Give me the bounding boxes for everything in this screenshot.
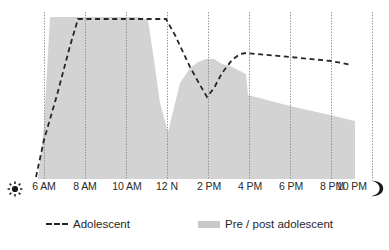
x-tick-1: 8 AM — [73, 180, 97, 192]
x-tick-8: 10 PM — [337, 180, 367, 192]
x-tick-5: 4 PM — [238, 180, 262, 192]
legend-swatch-dashed — [46, 223, 68, 225]
x-axis-tick-labels: 6 AM 8 AM 10 AM 12 N 2 PM 4 PM 6 PM 8 PM… — [0, 180, 389, 198]
x-tick-6: 6 PM — [279, 180, 303, 192]
sleep-pattern-chart: 6 AM 8 AM 10 AM 12 N 2 PM 4 PM 6 PM 8 PM… — [0, 0, 389, 250]
legend-item-adolescent[interactable]: Adolescent — [46, 218, 130, 230]
legend-label-adolescent: Adolescent — [73, 218, 130, 230]
x-tick-0: 6 AM — [32, 180, 56, 192]
x-tick-3: 12 N — [156, 180, 178, 192]
legend-swatch-solid — [198, 221, 220, 228]
chart-plot-area — [0, 0, 389, 250]
chart-legend: Adolescent Pre / post adolescent — [0, 214, 389, 244]
x-tick-2: 10 AM — [112, 180, 141, 192]
legend-item-pre-post-adolescent[interactable]: Pre / post adolescent — [198, 218, 333, 230]
legend-label-pre-post-adolescent: Pre / post adolescent — [225, 218, 333, 230]
x-tick-4: 2 PM — [197, 180, 221, 192]
